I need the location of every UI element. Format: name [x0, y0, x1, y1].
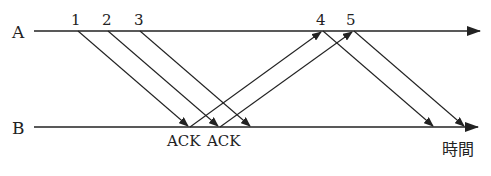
- packet-arrow-5: [354, 31, 464, 126]
- timeline-label-b: B: [12, 118, 25, 138]
- packet-label-1: 1: [71, 11, 81, 29]
- time-axis-label: 時間: [442, 140, 474, 159]
- packet-arrow-3: [140, 31, 250, 126]
- packet-arrow-1: [78, 31, 188, 126]
- ack-arrow-1: [190, 32, 321, 127]
- packet-arrow-4: [323, 31, 433, 126]
- packet-arrow-2: [108, 31, 218, 126]
- packet-label-5: 5: [346, 11, 356, 29]
- packet-label-2: 2: [102, 11, 112, 29]
- packet-label-3: 3: [134, 11, 144, 29]
- packet-label-4: 4: [316, 11, 326, 29]
- ack-label-2: ACK: [206, 132, 241, 150]
- timeline-label-a: A: [11, 22, 25, 42]
- ack-label-1: ACK: [166, 132, 201, 150]
- sliding-window-diagram: A B 1 2 3 4 5 ACK ACK 時間: [0, 0, 491, 176]
- ack-arrow-2: [220, 32, 352, 127]
